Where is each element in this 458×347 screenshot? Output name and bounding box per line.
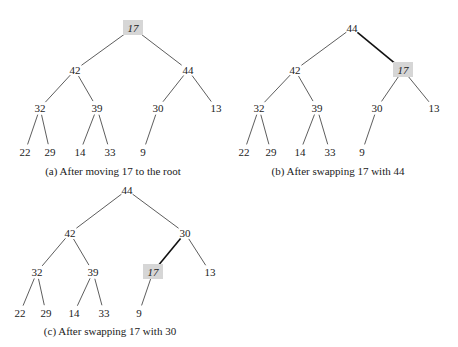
tree-node: 42: [290, 64, 301, 76]
tree-node: 22: [239, 146, 250, 158]
tree-edge: [81, 32, 127, 65]
tree-edge: [23, 278, 34, 305]
tree-node: 39: [92, 102, 104, 114]
tree-edge: [79, 76, 93, 101]
node-label: 42: [70, 64, 81, 76]
tree-edge: [301, 32, 346, 65]
node-label: 14: [295, 146, 307, 158]
caption: (c) After swapping 17 with 30: [44, 325, 177, 338]
highlighted-node: 17: [143, 264, 163, 279]
tree-node: 33: [99, 307, 111, 319]
node-label: 39: [88, 266, 100, 278]
node-label: 30: [372, 102, 384, 114]
node-label: 17: [398, 64, 410, 76]
tree-edge: [357, 32, 396, 64]
tree-node: 29: [41, 307, 53, 319]
tree-node: 14: [69, 307, 81, 319]
node-label: 33: [99, 307, 111, 319]
tree-edge: [83, 115, 95, 145]
tree-node: 9: [136, 307, 142, 319]
tree-edge: [265, 75, 291, 102]
tree-node: 22: [15, 307, 26, 319]
tree-edge: [407, 75, 429, 101]
tree-edge: [42, 115, 49, 144]
tree-edge: [77, 278, 90, 305]
node-label: 13: [211, 102, 223, 114]
node-label: 22: [239, 146, 250, 158]
node-label: 30: [153, 102, 165, 114]
node-label: 22: [15, 307, 26, 319]
node-label: 29: [41, 307, 53, 319]
tree-edge: [261, 115, 269, 145]
tree-edge: [146, 115, 156, 145]
node-label: 17: [148, 266, 160, 278]
heap-tree-c: 44423032391713222914339(c) After swappin…: [15, 184, 217, 338]
node-label: 29: [266, 146, 278, 158]
heap-tree-b: 44421732393013222914339(b) After swappin…: [239, 22, 441, 178]
node-label: 29: [45, 146, 57, 158]
node-label: 22: [20, 146, 31, 158]
node-label: 39: [312, 102, 324, 114]
tree-node: 30: [372, 102, 384, 114]
tree-node: 14: [295, 146, 307, 158]
tree-node: 32: [254, 102, 265, 114]
tree-node: 33: [105, 146, 117, 158]
node-label: 13: [205, 266, 217, 278]
tree-node: 44: [183, 64, 195, 76]
tree-edge: [247, 115, 257, 145]
node-label: 42: [290, 64, 301, 76]
tree-edge: [189, 239, 206, 265]
heap-diagrams: 17424432393013222914339(a) After moving …: [0, 0, 458, 347]
tree-edge: [163, 75, 184, 101]
tree-node: 44: [347, 22, 359, 34]
node-label: 32: [254, 102, 265, 114]
node-label: 33: [105, 146, 117, 158]
node-label: 44: [122, 184, 134, 196]
tree-node: 9: [359, 146, 365, 158]
tree-node: 33: [325, 146, 337, 158]
tree-node: 42: [65, 227, 76, 239]
tree-node: 44: [122, 184, 134, 196]
node-label: 39: [92, 102, 104, 114]
node-label: 30: [180, 227, 192, 239]
highlighted-node: 17: [123, 20, 143, 35]
node-label: 44: [183, 64, 195, 76]
node-label: 33: [325, 146, 337, 158]
node-label: 32: [32, 266, 43, 278]
tree-node: 39: [88, 266, 100, 278]
node-label: 42: [65, 227, 76, 239]
node-label: 17: [128, 22, 140, 34]
tree-node: 29: [266, 146, 278, 158]
highlighted-node: 17: [393, 62, 413, 77]
tree-edge: [74, 239, 89, 265]
tree-node: 13: [205, 266, 217, 278]
caption: (b) After swapping 17 with 44: [272, 165, 405, 178]
tree-node: 9: [140, 146, 146, 158]
tree-node: 42: [70, 64, 81, 76]
tree-edge: [45, 75, 70, 102]
tree-edge: [133, 194, 179, 228]
node-label: 14: [69, 307, 81, 319]
tree-edge: [95, 279, 102, 306]
tree-edge: [192, 76, 211, 102]
tree-node: 32: [35, 102, 46, 114]
node-label: 9: [140, 146, 146, 158]
tree-node: 14: [75, 146, 87, 158]
tree-node: 29: [45, 146, 57, 158]
tree-node: 39: [312, 102, 324, 114]
tree-node: 22: [20, 146, 31, 158]
tree-edge: [303, 115, 315, 145]
tree-node: 32: [32, 266, 43, 278]
node-label: 9: [136, 307, 142, 319]
tree-edge: [28, 115, 38, 145]
caption: (a) After moving 17 to the root: [45, 165, 181, 178]
tree-edge: [382, 76, 400, 102]
node-label: 44: [347, 22, 359, 34]
tree-edge: [365, 115, 375, 145]
tree-edge: [299, 76, 313, 101]
tree-edge: [319, 115, 328, 145]
tree-edge: [139, 32, 182, 65]
tree-edge: [158, 238, 180, 265]
tree-node: 30: [180, 227, 192, 239]
tree-edge: [142, 279, 151, 306]
